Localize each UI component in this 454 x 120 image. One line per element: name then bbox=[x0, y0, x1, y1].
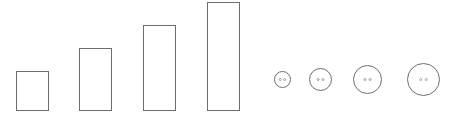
shapes-diagram bbox=[0, 0, 454, 120]
increasing-rectangles bbox=[17, 3, 240, 111]
button-icon-3 bbox=[354, 66, 382, 94]
button-outline bbox=[354, 66, 382, 94]
button-hole bbox=[420, 79, 422, 81]
rectangle-1 bbox=[17, 72, 49, 111]
rectangle-4 bbox=[208, 3, 240, 111]
button-hole bbox=[322, 79, 324, 81]
increasing-buttons bbox=[275, 64, 440, 96]
button-hole bbox=[364, 79, 366, 81]
button-outline bbox=[275, 72, 291, 88]
button-hole bbox=[284, 79, 286, 81]
button-hole bbox=[425, 79, 427, 81]
rectangle-2 bbox=[80, 49, 112, 111]
button-hole bbox=[279, 79, 281, 81]
button-icon-2 bbox=[310, 69, 332, 91]
button-hole bbox=[369, 79, 371, 81]
rectangle-3 bbox=[144, 26, 176, 111]
button-icon-4 bbox=[408, 64, 440, 96]
button-hole bbox=[317, 79, 319, 81]
button-outline bbox=[408, 64, 440, 96]
button-outline bbox=[310, 69, 332, 91]
button-icon-1 bbox=[275, 72, 291, 88]
